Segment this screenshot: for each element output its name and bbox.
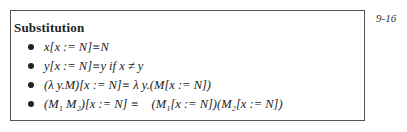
page-number: 9-16 xyxy=(376,12,396,24)
section-title: Substitution xyxy=(14,20,84,36)
list-item: x[x := N]≡N xyxy=(28,38,283,57)
rule-formula: (λ y.M)[x := N]≡ λ y.(M[x := N]) xyxy=(44,78,211,92)
rule-formula: x[x := N]≡N xyxy=(44,40,109,54)
list-item: (λ y.M)[x := N]≡ λ y.(M[x := N]) xyxy=(28,76,283,95)
bullet-icon xyxy=(28,82,34,88)
bullet-icon xyxy=(28,101,34,107)
list-item: y[x := N]≡y if x ≠ y xyxy=(28,57,283,76)
substitution-rules-list: x[x := N]≡N y[x := N]≡y if x ≠ y (λ y.M)… xyxy=(28,38,283,114)
list-item: (M₁ M₂)[x := N] ≡ (M₁[x := N])(M₂[x := N… xyxy=(28,95,283,114)
rule-formula: (M₁ M₂)[x := N] ≡ (M₁[x := N])(M₂[x := N… xyxy=(44,97,283,111)
bullet-icon xyxy=(28,63,34,69)
bullet-icon xyxy=(28,44,34,50)
rule-formula: y[x := N]≡y if x ≠ y xyxy=(44,59,143,73)
